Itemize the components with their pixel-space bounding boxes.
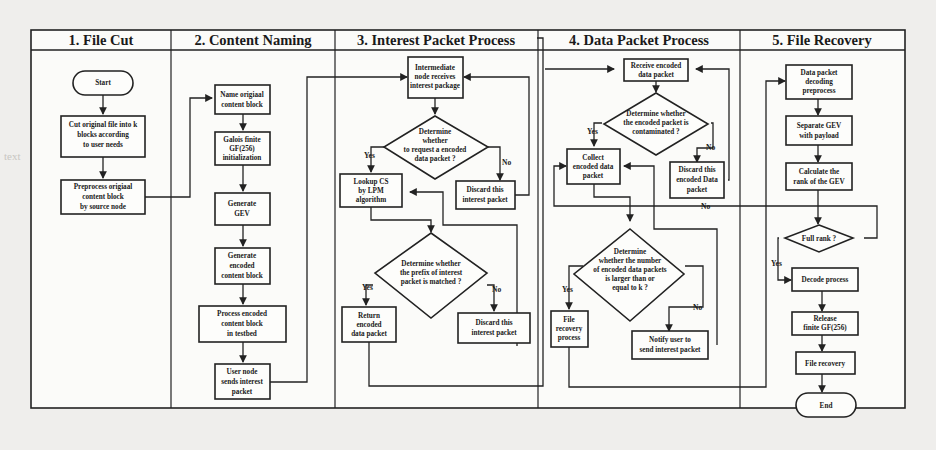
node-label: sends interest bbox=[221, 378, 263, 386]
lane-header-content-naming: 2. Content Naming bbox=[194, 32, 312, 48]
yes-label: Yes bbox=[364, 151, 375, 160]
node-label: blocks according bbox=[77, 131, 129, 139]
node-label: Notify user to bbox=[649, 336, 691, 344]
lane-header-data-packet: 4. Data Packet Process bbox=[569, 32, 709, 48]
node-label: encoded bbox=[356, 321, 381, 329]
node-label: data packet ? bbox=[414, 155, 456, 163]
node-galois: Galois finite GF(256) initialization bbox=[215, 132, 270, 165]
node-release-gf: Release finite GF(256) bbox=[792, 312, 858, 335]
node-label: by source node bbox=[80, 203, 126, 211]
lane-header-file-recovery: 5. File Recovery bbox=[772, 32, 872, 48]
yes-label: Yes bbox=[771, 259, 782, 268]
node-label: Determine bbox=[614, 248, 646, 256]
node-label: Determine whether bbox=[626, 110, 686, 118]
node-label: contaminated ? bbox=[632, 128, 680, 136]
node-label: packet bbox=[687, 186, 708, 194]
node-user-sends: User node sends interest packet bbox=[215, 364, 270, 399]
node-label: initialization bbox=[223, 154, 262, 162]
node-file-recovery: File recovery bbox=[796, 352, 855, 374]
node-label: to user needs bbox=[83, 141, 123, 149]
node-label: equal to k ? bbox=[612, 284, 648, 292]
flowchart-canvas: text 1. File Cut 2. Content Naming 3. In… bbox=[0, 0, 936, 450]
node-label: content block bbox=[221, 272, 262, 280]
node-return-encoded: Return encoded data packet bbox=[342, 307, 396, 342]
no-label: No bbox=[701, 202, 710, 211]
node-label: File bbox=[563, 316, 575, 324]
node-label: encoded bbox=[229, 262, 254, 270]
node-decoding-preprocess: Data packet decoding preprocess bbox=[786, 65, 852, 99]
node-label: preprocess bbox=[803, 87, 836, 95]
node-label: whether the number bbox=[599, 257, 662, 265]
node-label: Determine bbox=[419, 128, 451, 136]
node-lookup-cs: Lookup CS by LPM algorithm bbox=[340, 174, 402, 207]
node-label: encoded data bbox=[573, 163, 614, 171]
node-label: Generate bbox=[228, 252, 256, 260]
node-label: encoded Data bbox=[676, 176, 718, 184]
lane-header-interest-packet: 3. Interest Packet Process bbox=[357, 32, 515, 48]
node-label: is larger than or bbox=[605, 275, 655, 283]
no-label: No bbox=[706, 143, 715, 152]
node-label: Full rank ? bbox=[802, 235, 837, 243]
node-label: whether bbox=[422, 137, 448, 145]
node-label: Calculate the bbox=[799, 168, 840, 176]
node-label: Galois finite bbox=[223, 136, 260, 144]
node-file-recovery-process: File recovery process bbox=[551, 311, 588, 347]
node-label: Preprocess origiaal bbox=[74, 183, 133, 191]
node-label: in testbed bbox=[227, 330, 257, 338]
node-label: Data packet bbox=[801, 69, 839, 77]
node-label: interest package bbox=[410, 82, 460, 90]
node-label: interest packet bbox=[471, 329, 517, 337]
node-label: Collect bbox=[582, 154, 604, 162]
node-label: packet bbox=[232, 388, 253, 396]
node-discard-data: Discard this encoded Data packet bbox=[670, 162, 724, 198]
node-label: the encoded packet is bbox=[623, 119, 688, 127]
node-label: Intermediate bbox=[415, 64, 455, 72]
node-notify-user: Notify user to send interest packet bbox=[632, 331, 708, 359]
node-start: Start bbox=[73, 71, 133, 95]
node-preprocess: Preprocess origiaal content block by sou… bbox=[61, 180, 145, 214]
node-label: content block bbox=[82, 193, 123, 201]
node-cut-file: Cut original file into k blocks accordin… bbox=[61, 116, 145, 157]
yes-label: Yes bbox=[587, 127, 598, 136]
node-label: to request a encoded bbox=[404, 146, 467, 154]
node-label: send interest packet bbox=[640, 346, 702, 354]
lane-header-file-cut: 1. File Cut bbox=[69, 32, 134, 48]
node-label: rank of the GEV bbox=[793, 178, 845, 186]
node-label: Release bbox=[813, 315, 836, 323]
node-label: Discard this bbox=[679, 166, 716, 174]
node-intermediate: Intermediate node receives interest pack… bbox=[408, 57, 463, 98]
node-label: User node bbox=[227, 368, 258, 376]
node-calc-rank: Calculate the rank of the GEV bbox=[786, 163, 852, 190]
node-label: content block bbox=[221, 320, 262, 328]
node-label: Decode process bbox=[802, 276, 849, 284]
node-label: finite GF(256) bbox=[803, 324, 847, 332]
node-label: Determine whether bbox=[401, 260, 461, 268]
node-label: Lookup CS bbox=[354, 178, 389, 186]
no-label: No bbox=[502, 158, 511, 167]
node-label: by LPM bbox=[358, 187, 384, 195]
node-label: Process encoded bbox=[217, 310, 267, 318]
no-label: No bbox=[693, 303, 702, 312]
node-label: with payload bbox=[799, 132, 839, 140]
no-label: No bbox=[492, 285, 501, 294]
node-label: Cut original file into k bbox=[69, 121, 137, 129]
node-process-encoded: Process encoded content block in testbed bbox=[199, 306, 286, 342]
node-label: algorithm bbox=[356, 196, 386, 204]
node-label: Start bbox=[95, 79, 111, 87]
node-label: recovery bbox=[556, 325, 583, 333]
node-label: decoding bbox=[805, 78, 833, 86]
node-label: End bbox=[820, 402, 833, 410]
node-end: End bbox=[796, 393, 856, 417]
yes-label: Yes bbox=[362, 283, 373, 292]
node-label: of encoded data packets bbox=[593, 266, 666, 274]
node-generate-gev: Generate GEV bbox=[215, 193, 270, 225]
node-label: data packet bbox=[351, 330, 387, 338]
node-separate-gev: Separate GEV with payload bbox=[786, 116, 852, 145]
node-label: interest packet bbox=[462, 196, 508, 204]
node-label: Return bbox=[358, 312, 380, 320]
node-label: GF(256) bbox=[229, 145, 255, 153]
node-generate-encoded: Generate encoded content block bbox=[215, 248, 270, 284]
node-label: content block bbox=[221, 101, 262, 109]
node-collect-encoded: Collect encoded data packet bbox=[567, 149, 620, 184]
node-label: Generate bbox=[228, 200, 256, 208]
